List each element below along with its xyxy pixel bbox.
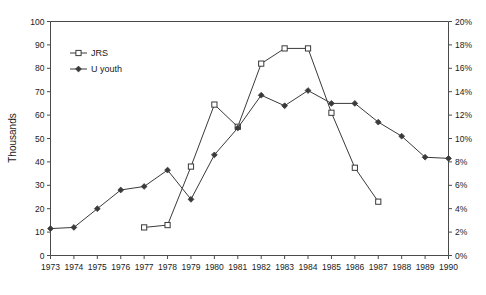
x-tick-label: 1983 [275,262,294,272]
x-tick-label: 1981 [228,262,247,272]
data-point [188,164,193,169]
x-tick-label: 1974 [64,262,83,272]
y-tick-label-right: 14% [455,87,472,97]
line-chart: 0102030405060708090100 0%2%4%6%8%10%12%1… [0,0,486,295]
x-tick-label: 1989 [416,262,435,272]
data-point [352,165,357,170]
x-tick-label: 1976 [111,262,130,272]
y-tick-label-right: 4% [455,204,468,214]
data-point [165,222,170,227]
y-tick-label-left: 100 [30,17,44,27]
y-tick-label-left: 70 [35,87,45,97]
x-tick-label: 1987 [369,262,388,272]
x-tick-label: 1980 [205,262,224,272]
x-tick-label: 1986 [345,262,364,272]
y-tick-label-right: 18% [455,40,472,50]
y-axis-label: Thousands [7,113,18,162]
data-point [259,61,264,66]
x-tick-label: 1982 [252,262,271,272]
legend-label: JRS [91,48,108,58]
x-tick-label: 1977 [135,262,154,272]
x-tick-label: 1988 [392,262,411,272]
x-tick-label: 1990 [439,262,458,272]
data-point [329,110,334,115]
data-point [212,102,217,107]
y-tick-label-left: 50 [35,134,45,144]
data-point [142,225,147,230]
legend-marker [76,50,81,55]
y-tick-label-right: 20% [455,17,472,27]
y-tick-label-right: 8% [455,157,468,167]
y-tick-label-left: 20 [35,204,45,214]
y-tick-label-left: 80 [35,63,45,73]
y-tick-label-right: 12% [455,110,472,120]
x-tick-label: 1975 [88,262,107,272]
x-tick-label: 1979 [182,262,201,272]
data-point [376,199,381,204]
chart-background [0,0,486,295]
y-tick-label-left: 60 [35,110,45,120]
y-tick-label-left: 90 [35,40,45,50]
x-tick-label: 1978 [158,262,177,272]
y-tick-label-right: 2% [455,227,468,237]
y-tick-label-left: 40 [35,157,45,167]
data-point [305,46,310,51]
x-tick-label: 1973 [41,262,60,272]
y-tick-label-right: 0% [455,251,468,261]
data-point [282,46,287,51]
y-tick-label-right: 10% [455,134,472,144]
legend-label: U youth [91,64,122,74]
x-tick-label: 1985 [322,262,341,272]
chart-container: 0102030405060708090100 0%2%4%6%8%10%12%1… [0,0,486,295]
y-tick-label-left: 0 [40,251,45,261]
y-tick-label-left: 10 [35,227,45,237]
y-tick-label-left: 30 [35,180,45,190]
x-tick-label: 1984 [299,262,318,272]
y-tick-label-right: 6% [455,180,468,190]
y-tick-label-right: 16% [455,63,472,73]
